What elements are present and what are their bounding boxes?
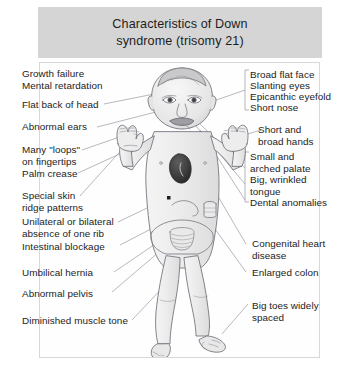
bracket-mouth-group	[245, 152, 249, 202]
label-congenital-heart-disease: Congenital heart disease	[252, 238, 325, 261]
label-short-nose: Short nose	[250, 102, 298, 114]
infant-pupil-left	[168, 98, 172, 102]
infant-foot-left	[151, 344, 170, 359]
label-unilateral-or-bilateral-absence-of-one-rib: Unilateral or bilateral absence of one r…	[22, 216, 114, 239]
label-epicanthic-eyefold: Epicanthic eyefold	[250, 91, 331, 103]
label-slanting-eyes: Slanting eyes	[250, 80, 310, 92]
infant-pupil-right	[192, 98, 196, 102]
infant-leg-left	[156, 256, 180, 344]
label-special-skin-ridge-patterns: Special skin ridge patterns	[22, 190, 83, 213]
bracket-face-group	[245, 70, 249, 110]
infant-hand-left	[117, 125, 143, 151]
label-palm-crease: Palm crease	[22, 168, 77, 180]
label-many-loops-on-fingertips: Many "loops" on fingertips	[22, 144, 80, 167]
nipple-left	[160, 162, 163, 165]
label-abnormal-pelvis: Abnormal pelvis	[22, 288, 93, 300]
infant-foot-right	[199, 336, 225, 352]
label-dental-anomalies: Dental anomalies	[250, 197, 327, 209]
label-flat-back-of-head: Flat back of head	[22, 99, 99, 111]
label-growth-failure: Growth failure	[22, 68, 84, 80]
leader-big-toes	[222, 304, 248, 334]
label-broad-flat-face: Broad flat face	[250, 69, 314, 81]
label-big-wrinkled-tongue: Big, wrinkled tongue	[250, 174, 307, 197]
label-mental-retardation: Mental retardation	[22, 80, 103, 92]
label-intestinal-blockage: Intestinal blockage	[22, 241, 105, 253]
leader-skin-ridge	[80, 146, 125, 196]
infant-intestines	[170, 228, 194, 251]
label-enlarged-colon: Enlarged colon	[252, 267, 319, 279]
intestinal-blockage-segment	[204, 201, 216, 217]
label-short-and-broad-hands: Short and broad hands	[258, 124, 313, 147]
label-big-toes-widely-spaced: Big toes widely spaced	[252, 300, 319, 323]
down-syndrome-characteristics-figure: Characteristics of Downsyndrome (trisomy…	[0, 0, 359, 374]
label-abnormal-ears: Abnormal ears	[22, 121, 87, 133]
label-umbilical-hernia: Umbilical hernia	[22, 267, 93, 279]
infant-leg-right	[184, 256, 210, 336]
leader-abnormal-ears	[97, 112, 156, 127]
nipple-right	[204, 162, 207, 165]
infant-hand-right	[222, 125, 248, 151]
rib-absence-marker	[167, 196, 171, 200]
label-diminished-muscle-tone: Diminished muscle tone	[22, 315, 128, 327]
label-small-and-arched-palate: Small and arched palate	[250, 151, 311, 174]
